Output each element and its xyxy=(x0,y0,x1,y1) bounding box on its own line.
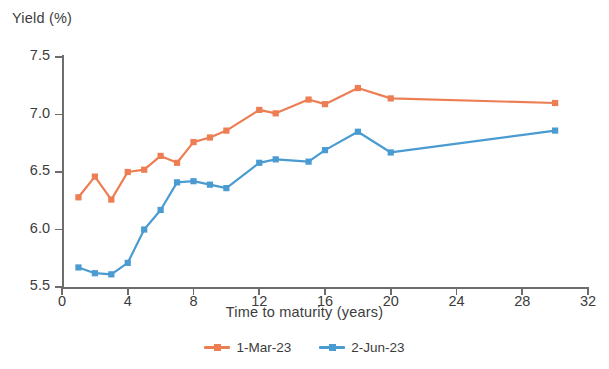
data-point-marker xyxy=(158,153,164,159)
series-line xyxy=(78,131,555,275)
data-point-marker xyxy=(75,264,81,270)
legend-item[interactable]: 2-Jun-23 xyxy=(319,340,404,355)
data-point-marker xyxy=(207,182,213,188)
data-point-marker xyxy=(305,96,311,102)
data-point-marker xyxy=(388,149,394,155)
data-point-marker xyxy=(256,160,262,166)
data-point-marker xyxy=(141,226,147,232)
yield-curve-chart: Yield (%) 5.56.06.57.07.5 04812162024283… xyxy=(0,0,609,369)
data-point-marker xyxy=(223,185,229,191)
data-point-marker xyxy=(355,85,361,91)
data-point-marker xyxy=(92,174,98,180)
series-line xyxy=(78,88,555,200)
data-point-marker xyxy=(305,159,311,165)
legend-label: 2-Jun-23 xyxy=(351,340,404,355)
series-2-Jun-23 xyxy=(75,128,558,278)
data-point-marker xyxy=(273,110,279,116)
data-point-marker xyxy=(322,101,328,107)
data-point-marker xyxy=(256,107,262,113)
data-point-marker xyxy=(190,139,196,145)
data-point-marker xyxy=(207,134,213,140)
data-point-marker xyxy=(141,167,147,173)
data-point-marker xyxy=(108,197,114,203)
x-axis-title: Time to maturity (years) xyxy=(0,304,609,320)
data-point-marker xyxy=(75,194,81,200)
data-point-marker xyxy=(388,95,394,101)
data-point-marker xyxy=(552,100,558,106)
data-point-marker xyxy=(92,270,98,276)
legend-label: 1-Mar-23 xyxy=(236,340,291,355)
data-point-marker xyxy=(158,207,164,213)
data-point-marker xyxy=(125,260,131,266)
data-point-marker xyxy=(174,160,180,166)
data-point-marker xyxy=(108,271,114,277)
data-point-marker xyxy=(125,169,131,175)
data-point-marker xyxy=(322,147,328,153)
chart-legend: 1-Mar-232-Jun-23 xyxy=(0,340,609,355)
series-1-Mar-23 xyxy=(75,85,558,203)
data-point-marker xyxy=(190,178,196,184)
legend-item[interactable]: 1-Mar-23 xyxy=(204,340,291,355)
data-point-marker xyxy=(355,129,361,135)
data-point-marker xyxy=(223,128,229,134)
data-point-marker xyxy=(552,128,558,134)
legend-swatch-icon xyxy=(204,346,230,348)
data-point-marker xyxy=(174,179,180,185)
legend-swatch-icon xyxy=(319,346,345,348)
data-point-marker xyxy=(273,156,279,162)
